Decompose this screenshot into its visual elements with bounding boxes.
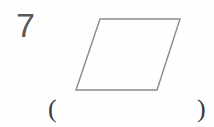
parallelogram-shape (76, 19, 180, 90)
answer-paren-close: ) (197, 96, 206, 122)
answer-blank-input[interactable] (56, 99, 198, 123)
worksheet-page: 7 ( ) (0, 0, 214, 127)
